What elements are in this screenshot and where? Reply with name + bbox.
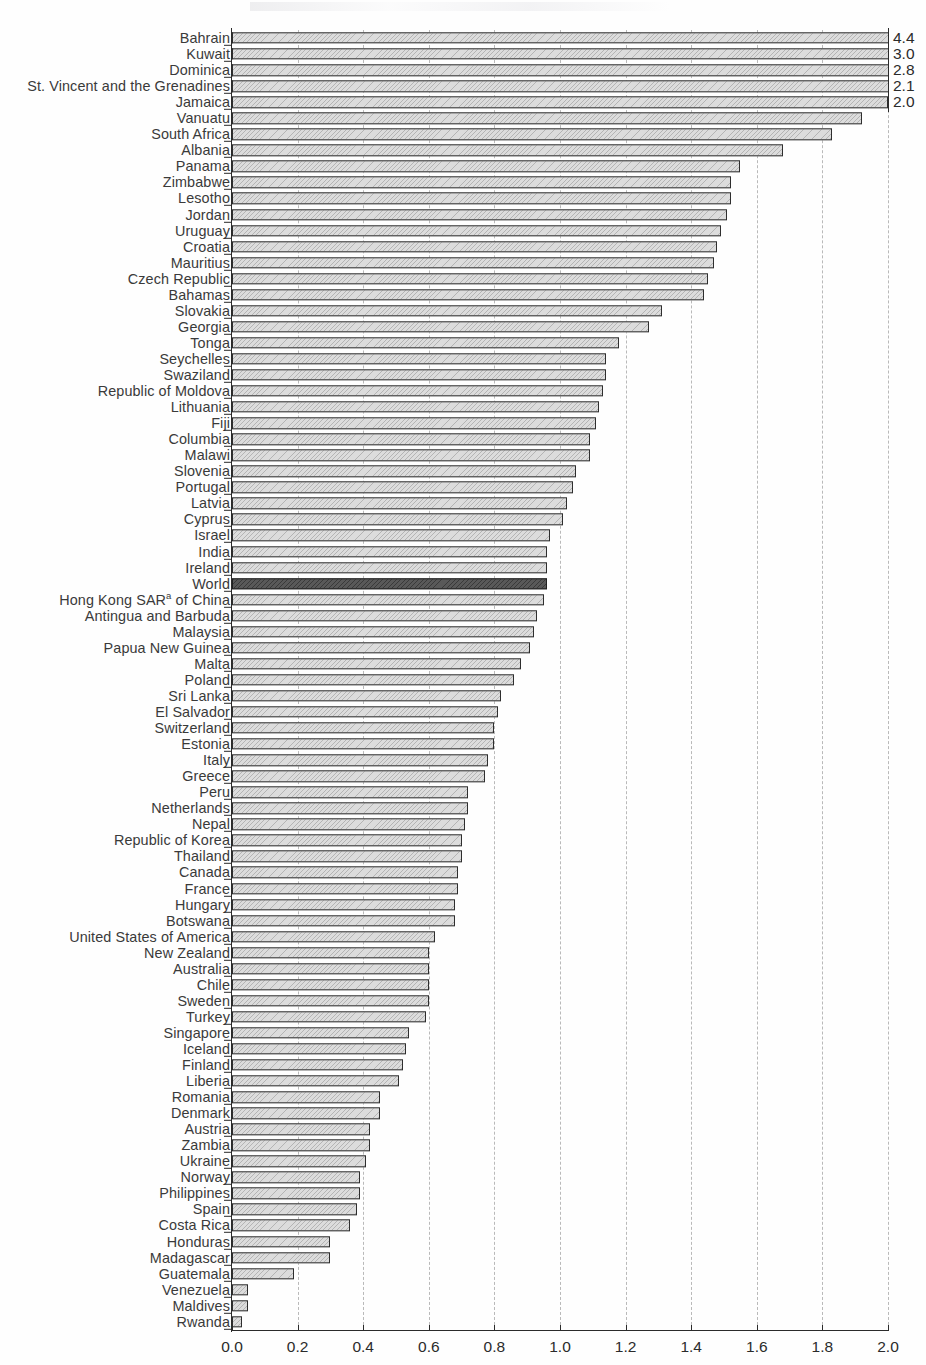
bar [232,1172,360,1183]
bar [232,1124,370,1135]
bar [232,1075,399,1086]
bar-category-label: South Africa [151,127,230,141]
bar-category-label: Venezuela [162,1282,230,1296]
bar [232,80,888,91]
bar-row: Malta [0,656,926,672]
bar-category-label: New Zealand [144,945,230,959]
x-axis-tick-label: 0.6 [418,1339,440,1355]
bar-row: Cyprus [0,511,926,527]
right-axis-rule [888,28,889,112]
x-axis-tick [494,1325,495,1331]
bar [232,1027,409,1038]
bar-row: Slovenia [0,463,926,479]
bar-category-label: Australia [173,961,230,975]
bar-row: Italy [0,752,926,768]
x-axis-tick-label: 1.6 [746,1339,768,1355]
bar-category-label: Peru [199,785,230,799]
bar-category-label: Uruguay [175,223,230,237]
bar [232,1091,380,1102]
bar [232,915,455,926]
bar [232,1220,350,1231]
bar-row: Poland [0,672,926,688]
x-axis-tick-label: 1.2 [615,1339,637,1355]
bar-category-label: Jamaica [176,95,230,109]
x-axis-tick-label: 1.0 [549,1339,571,1355]
bar-category-label: Greece [182,769,230,783]
bar [232,129,832,140]
x-axis-tick-label: 1.4 [680,1339,702,1355]
x-axis-tick [363,1325,364,1331]
bar [232,883,458,894]
bar [232,64,888,75]
bar-row: Romania [0,1089,926,1105]
bar-category-label: Iceland [183,1041,230,1055]
bar-category-label: Mauritius [171,255,230,269]
bar [232,353,606,364]
x-axis-tick [298,1325,299,1331]
bar [232,867,458,878]
bar-category-label: Canada [179,865,230,879]
bar-category-label: Slovenia [174,464,230,478]
bar [232,979,429,990]
bar-row: Turkey [0,1009,926,1025]
bar-row: Croatia [0,239,926,255]
bar-row: Sri Lanka [0,688,926,704]
bar-category-label: Vanuatu [177,111,230,125]
bar-category-label: Malta [194,656,230,670]
bar-row: Chile [0,977,926,993]
clipped-bar-value-label: 3.0 [893,46,915,62]
bar-category-label: Zambia [181,1138,230,1152]
bar-row: Jamaica2.0 [0,94,926,110]
bar-row: Tonga [0,335,926,351]
bar-row: Thailand [0,848,926,864]
bar-row: Latvia [0,495,926,511]
bar-row: Uruguay [0,223,926,239]
bar-row: Peru [0,784,926,800]
x-axis-tick-label: 0.8 [484,1339,506,1355]
bar-row: Fiji [0,415,926,431]
bar-row: Austria [0,1121,926,1137]
bar [232,995,429,1006]
bar-category-label: Dominica [169,63,230,77]
bar-category-label: Republic of Korea [114,833,230,847]
bar-row: Bahrain4.4 [0,30,926,46]
x-axis-tick-label: 0.4 [352,1339,374,1355]
bar-rows: Bahrain4.4Kuwait3.0Dominica2.8St. Vincen… [0,30,926,1330]
bar-category-label: Guatemala [159,1266,230,1280]
y-axis-line [231,28,232,1332]
bar [232,1236,330,1247]
bar [232,48,888,59]
bar [232,273,708,284]
bar-world [232,578,547,589]
bar-category-label: Panama [176,159,230,173]
bar-category-label: Spain [193,1202,230,1216]
bar-category-label: Sweden [177,993,230,1007]
bar [232,385,603,396]
bar-category-label: Czech Republic [128,271,230,285]
bar [232,369,606,380]
bar [232,97,888,108]
bar [232,1268,294,1279]
bar-row: Canada [0,864,926,880]
x-axis-tick [691,1325,692,1331]
bar-category-label: Ukraine [180,1154,230,1168]
bar-category-label: Columbia [168,432,230,446]
bar-row: Israel [0,527,926,543]
bar-row: Portugal [0,479,926,495]
bar-row: Netherlands [0,800,926,816]
clipped-bar-value-label: 2.1 [893,78,915,94]
bar [232,450,590,461]
bar [232,113,862,124]
bar-row: Venezuela [0,1282,926,1298]
bar [232,305,662,316]
bar-row: Ireland [0,560,926,576]
bar-row: Maldives [0,1298,926,1314]
bar-category-label: Portugal [176,480,230,494]
bar-row: Zambia [0,1137,926,1153]
bar-row: Kuwait3.0 [0,46,926,62]
bar-row: Rwanda [0,1314,926,1330]
bar [232,803,468,814]
bar-category-label: Malawi [185,448,230,462]
x-axis-tick [232,1325,233,1331]
bar-category-label: Fiji [211,416,230,430]
